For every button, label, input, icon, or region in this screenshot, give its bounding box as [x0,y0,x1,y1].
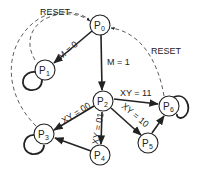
label-xy00: XY = 00 [60,100,93,126]
label-xy10: XY = 10 [120,101,151,129]
state-p5: P 5 [138,133,158,153]
edge-p0-p2 [101,35,102,90]
edge-p2-p6 [114,99,158,104]
svg-text:4: 4 [101,155,105,162]
svg-text:P: P [97,96,104,107]
state-p0: P 0 [90,15,110,35]
svg-text:2: 2 [104,101,108,108]
label-xy11: XY = 11 [120,88,151,98]
label-m1: M = 1 [107,57,130,67]
svg-text:1: 1 [46,70,50,77]
svg-text:P: P [142,138,149,149]
state-p6: P 6 [159,96,179,116]
state-p1: P 1 [35,60,55,80]
label-reset-right: RESET [151,46,182,56]
svg-text:0: 0 [101,25,105,32]
svg-text:P: P [94,20,101,31]
state-p4: P 4 [90,145,110,165]
label-m0: M = 0 [56,39,80,61]
label-reset-left: RESET [40,7,71,17]
svg-text:3: 3 [45,134,49,141]
state-p3: P 3 [34,124,54,144]
label-xy01: XY = 01 [90,112,105,145]
state-diagram: RESET RESET M = 0 M = 1 XY = 00 XY = 01 … [0,0,209,182]
svg-text:5: 5 [149,143,153,150]
state-p2: P 2 [93,91,113,111]
svg-text:P: P [38,129,45,140]
svg-text:P: P [39,65,46,76]
svg-text:6: 6 [170,106,174,113]
edge-p5-p6 [152,116,164,133]
svg-text:P: P [94,150,101,161]
edge-p4-p3 [55,138,91,151]
svg-text:P: P [163,101,170,112]
